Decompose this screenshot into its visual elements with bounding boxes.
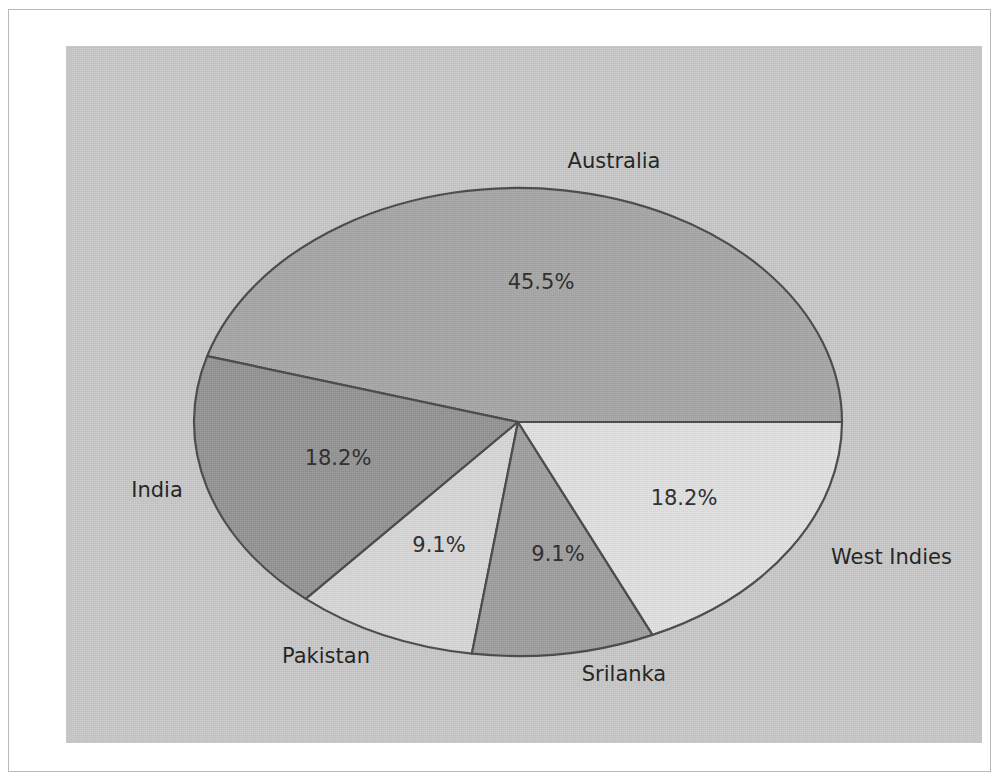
chart-plot-panel: 45.5%18.2%9.1%9.1%18.2% AustraliaWest In…: [66, 46, 982, 743]
pie-percent-australia: 45.5%: [508, 270, 575, 294]
pie-percent-west-indies: 18.2%: [651, 486, 718, 510]
pie-label-west-indies: West Indies: [831, 545, 952, 569]
pie-label-india: India: [131, 478, 183, 502]
pie-slices: [194, 188, 842, 656]
pie-percent-srilanka: 9.1%: [531, 542, 584, 566]
pie-percent-india: 18.2%: [305, 446, 372, 470]
pie-label-srilanka: Srilanka: [582, 662, 666, 686]
pie-label-australia: Australia: [568, 149, 661, 173]
figure-border: 45.5%18.2%9.1%9.1%18.2% AustraliaWest In…: [8, 9, 991, 772]
pie-percent-pakistan: 9.1%: [412, 533, 465, 557]
pie-label-pakistan: Pakistan: [282, 644, 370, 668]
pie-chart: 45.5%18.2%9.1%9.1%18.2% AustraliaWest In…: [66, 46, 982, 743]
